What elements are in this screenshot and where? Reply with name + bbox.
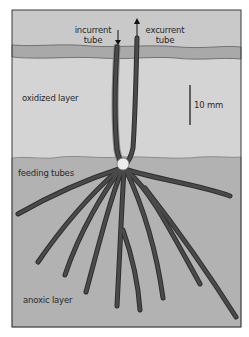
excurrent-label-line2: tube: [140, 35, 190, 45]
burrow-diagram: incurrent tube excurrent tube oxidized l…: [0, 0, 249, 337]
incurrent-label-line2: tube: [68, 35, 118, 45]
oxidized-layer-label: oxidized layer: [22, 93, 78, 103]
anoxic-layer-label: anoxic layer: [23, 295, 72, 305]
animal-body: [117, 158, 129, 170]
scale-label: 10 mm: [194, 100, 223, 110]
incurrent-tube-label: incurrent tube: [68, 25, 118, 45]
feeding-tubes-label: feeding tubes: [18, 168, 74, 178]
water-column: [12, 10, 241, 50]
excurrent-tube-label: excurrent tube: [140, 25, 190, 45]
incurrent-label-line1: incurrent: [68, 25, 118, 35]
excurrent-label-line1: excurrent: [140, 25, 190, 35]
sediment-surface-band: [12, 45, 241, 59]
